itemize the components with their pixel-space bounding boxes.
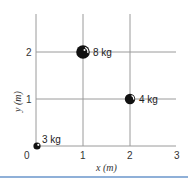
mass-label-3kg: 3 kg [42, 134, 61, 145]
grid [36, 14, 176, 146]
ball-glint [84, 49, 86, 51]
mass-3kg: 3 kg [33, 134, 61, 150]
ball-highlight [37, 144, 39, 146]
x-axis-label: x (m) [95, 162, 117, 174]
mass-label-8kg: 8 kg [93, 47, 112, 58]
mass-grid-diagram: 0 1 2 3 1 2 x (m) y (m) 3 kg 8 kg 4 kg [0, 0, 188, 179]
ball-icon [33, 142, 40, 149]
x-tick-2: 2 [127, 150, 133, 161]
y-tick-2: 2 [26, 47, 32, 58]
x-tick-1: 1 [80, 150, 86, 161]
x-tick-0: 0 [24, 150, 30, 161]
mass-8kg: 8 kg [76, 45, 112, 59]
y-axis-label: y (m) [12, 91, 24, 113]
bottom-rule [0, 176, 188, 178]
y-tick-1: 1 [26, 94, 32, 105]
x-tick-3: 3 [174, 150, 180, 161]
mass-4kg: 4 kg [125, 94, 158, 105]
mass-label-4kg: 4 kg [139, 94, 158, 105]
